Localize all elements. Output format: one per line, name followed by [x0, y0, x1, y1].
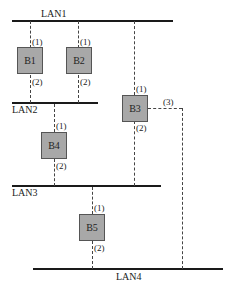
b3-port-2: (2): [136, 124, 147, 133]
bridge-b4: B4: [41, 132, 67, 159]
bridge-b1-label: B1: [24, 55, 36, 66]
b4-link-lan2: [54, 104, 55, 132]
b5-link-lan4: [92, 241, 93, 269]
b4-link-lan3: [54, 159, 55, 186]
lan2-label: LAN2: [12, 105, 38, 115]
bridge-b5: B5: [79, 214, 105, 241]
b4-port-1: (1): [56, 122, 67, 131]
b4-port-2: (2): [56, 162, 67, 171]
b3-link-lan3: [134, 121, 135, 186]
bridge-b1: B1: [17, 47, 43, 74]
b5-link-lan3: [92, 187, 93, 214]
lan4-segment: [33, 268, 223, 270]
b2-port-1: (1): [80, 38, 91, 47]
b1-port-2: (2): [32, 78, 43, 87]
lan4-label: LAN4: [116, 272, 142, 282]
bridge-b2-label: B2: [73, 55, 85, 66]
bridge-b3: B3: [122, 95, 148, 122]
b1-link-lan1: [30, 21, 31, 48]
b3-link-lan4: [182, 108, 183, 269]
lan1-segment: [12, 20, 173, 22]
bridge-b2: B2: [66, 47, 92, 74]
b2-link-lan2: [78, 75, 79, 103]
b3-link-lan1: [134, 21, 135, 95]
b3-port-1: (1): [136, 85, 147, 94]
lan1-label: LAN1: [41, 9, 67, 19]
b5-port-1: (1): [94, 204, 105, 213]
b1-port-1: (1): [32, 38, 43, 47]
b3-port-3: (3): [163, 98, 174, 107]
b3-link-port3-horizontal: [148, 108, 182, 109]
b5-port-2: (2): [94, 244, 105, 253]
bridge-b5-label: B5: [86, 222, 98, 233]
b1-link-lan2: [30, 75, 31, 103]
b2-link-lan1: [78, 21, 79, 48]
bridge-b4-label: B4: [48, 140, 60, 151]
lan3-label: LAN3: [12, 188, 38, 198]
b2-port-2: (2): [80, 78, 91, 87]
bridge-b3-label: B3: [129, 103, 141, 114]
